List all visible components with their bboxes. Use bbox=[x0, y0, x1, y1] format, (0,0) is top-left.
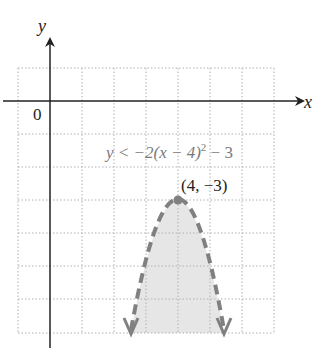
equation-tail: − 3 bbox=[206, 143, 233, 162]
inequality-label: y < −2(x − 4)2 − 3 bbox=[106, 141, 233, 163]
vertex-point bbox=[174, 196, 183, 205]
grid bbox=[18, 68, 274, 333]
equation-main: y < −2(x − 4) bbox=[106, 143, 201, 162]
origin-label: 0 bbox=[33, 105, 42, 125]
y-axis-label: y bbox=[38, 16, 46, 37]
vertex-label: (4, −3) bbox=[181, 176, 227, 196]
x-axis-label: x bbox=[304, 92, 312, 113]
graph-canvas bbox=[0, 0, 318, 358]
